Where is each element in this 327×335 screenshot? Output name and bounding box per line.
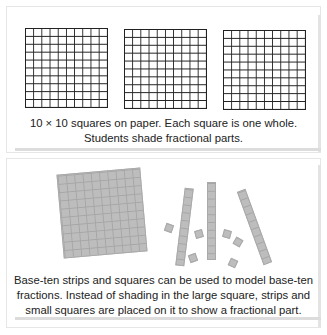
base-ten-small-square [222, 229, 232, 239]
base-ten-small-square [233, 237, 244, 248]
caption-line: Base-ten strips and squares can be used … [7, 273, 320, 288]
paper-grids-caption: 10 × 10 squares on paper. Each square is… [7, 116, 320, 146]
base-ten-small-square [164, 223, 174, 233]
base-ten-small-square [228, 258, 239, 269]
base-ten-caption: Base-ten strips and squares can be used … [7, 273, 320, 318]
panel-shadow-bottom [15, 148, 321, 151]
base-ten-large-square [56, 167, 147, 258]
base-ten-strip-2 [207, 182, 216, 260]
caption-line: fractions. Instead of shading in the lar… [7, 288, 320, 303]
base-ten-small-square [194, 229, 204, 239]
base-ten-panel: Base-ten strips and squares can be used … [6, 158, 321, 328]
ten-by-ten-grid-3 [223, 30, 306, 110]
caption-line: 10 × 10 squares on paper. Each square is… [7, 116, 320, 131]
caption-line: Students shade fractional parts. [7, 131, 320, 146]
paper-grids-panel: 10 × 10 squares on paper. Each square is… [6, 6, 321, 153]
base-ten-small-square [188, 253, 198, 263]
caption-line: small squares are placed on it to show a… [7, 303, 320, 318]
ten-by-ten-grid-1 [25, 28, 108, 108]
ten-by-ten-grid-2 [124, 29, 207, 109]
base-ten-strip-3 [237, 189, 272, 265]
